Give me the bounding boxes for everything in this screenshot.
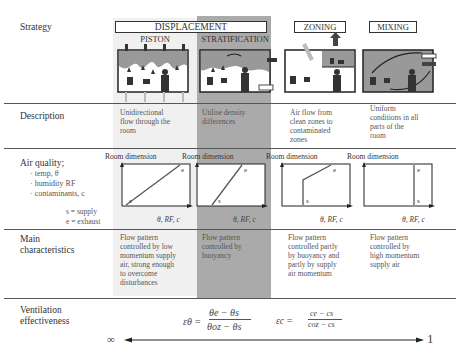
header-piston: PISTON bbox=[120, 34, 190, 44]
formula-c-lhs: εc = bbox=[276, 316, 293, 326]
chart-title: Room dimension bbox=[266, 152, 317, 161]
chart-mixing: Room dimension se θ, RF, c bbox=[347, 152, 437, 220]
formula-theta-den: θoz − θs bbox=[207, 321, 241, 332]
air-quality-title: Air quality; bbox=[20, 158, 100, 169]
main-piston: Flow patterncontrolled by lowmomentum su… bbox=[120, 233, 176, 287]
chart-xlabel: θ, RF, c bbox=[157, 215, 180, 224]
svg-text:s: s bbox=[417, 197, 420, 205]
description-zoning: Air flow fromclean zones tocontaminatedz… bbox=[290, 108, 332, 144]
row-label-air-quality: Air quality; · temp, θ · humidity RF · c… bbox=[20, 158, 100, 227]
description-stratification: Utilise densitydifferences bbox=[202, 108, 246, 126]
air-quality-contaminants: · contaminants, c bbox=[30, 189, 100, 199]
svg-text:e: e bbox=[244, 166, 247, 174]
svg-text:e: e bbox=[333, 166, 336, 174]
formula-theta-num: θe − θs bbox=[209, 307, 239, 318]
formula-theta-lhs: εθ = bbox=[183, 316, 201, 327]
divider-2 bbox=[4, 148, 456, 149]
formula-c-num: ce − cs bbox=[310, 309, 333, 318]
main-stratification: Flow patterncontrolled bybuoyancy bbox=[202, 233, 242, 260]
header-stratification: STRATIFICATION bbox=[195, 34, 275, 44]
row-label-main-characteristics: Main characteristics bbox=[20, 234, 74, 256]
header-mixing: MIXING bbox=[369, 21, 417, 33]
chart-piston: Room dimension se θ, RF, c bbox=[105, 152, 190, 220]
header-displacement: DISPLACEMENT bbox=[115, 21, 267, 33]
svg-text:e: e bbox=[181, 166, 184, 174]
chart-title: Room dimension bbox=[182, 152, 233, 161]
row-label-description: Description bbox=[20, 111, 64, 122]
main-mixing: Flow patterncontrolled byhigh momentumsu… bbox=[370, 233, 419, 269]
chart-zoning: Room dimension se θ, RF, c bbox=[266, 152, 356, 220]
row-label-strategy: Strategy bbox=[20, 22, 52, 33]
mixing-room-illustration bbox=[360, 44, 445, 99]
scale-infinity-label: ∞ bbox=[107, 333, 115, 345]
svg-text:e: e bbox=[417, 166, 420, 174]
chart-stratification: Room dimension se θ, RF, c bbox=[185, 152, 270, 220]
chart-title: Room dimension bbox=[347, 152, 398, 161]
formula-c-den: coz − cs bbox=[308, 320, 335, 329]
stratification-room-illustration bbox=[197, 44, 277, 99]
legend-supply: s = supply bbox=[66, 207, 100, 217]
chart-xlabel: θ, RF, c bbox=[233, 215, 256, 224]
zoning-room-illustration bbox=[282, 32, 362, 102]
air-quality-humidity: · humidity RF bbox=[30, 179, 100, 189]
svg-text:s: s bbox=[129, 197, 132, 205]
chart-title: Room dimension bbox=[105, 152, 156, 161]
effectiveness-scale-arrow bbox=[124, 334, 424, 346]
scale-one-label: 1 bbox=[427, 331, 434, 347]
chart-xlabel: θ, RF, c bbox=[402, 215, 425, 224]
main-zoning: Flow patterncontrolled partlyby buoyancy… bbox=[288, 233, 339, 278]
chart-xlabel: θ, RF, c bbox=[320, 215, 343, 224]
description-mixing: Uniformconditions in allparts of theroom bbox=[370, 104, 418, 140]
row-label-ventilation-effectiveness: Ventilation effectiveness bbox=[20, 305, 69, 327]
divider-4 bbox=[4, 298, 456, 299]
legend-exhaust: e = exhaust bbox=[66, 217, 100, 227]
piston-room-illustration bbox=[115, 44, 195, 104]
description-piston: Unidirectionalflow through theroom bbox=[120, 108, 170, 135]
divider-3 bbox=[4, 229, 456, 230]
svg-text:s: s bbox=[218, 197, 221, 205]
air-quality-temp: · temp, θ bbox=[30, 169, 100, 179]
svg-text:s: s bbox=[306, 197, 309, 205]
